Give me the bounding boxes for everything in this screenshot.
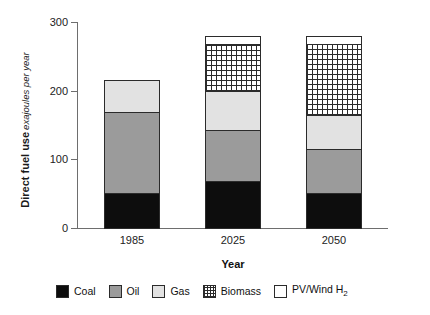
legend-label-coal: Coal xyxy=(74,285,96,297)
y-tick-label-100: 100 xyxy=(50,153,68,165)
legend-item-pv-wind[interactable]: PV/Wind H2 xyxy=(274,283,348,298)
bar-2050-segment-coal xyxy=(306,193,362,229)
bar-2050-segment-oil xyxy=(306,149,362,194)
bar-2025-segment-coal xyxy=(205,181,261,229)
y-tick-label-0: 0 xyxy=(62,222,68,234)
y-axis-line xyxy=(77,22,78,229)
y-tick-label-300: 300 xyxy=(50,16,68,28)
y-tick-300 xyxy=(71,22,78,23)
bar-2025-segment-biomass xyxy=(205,44,261,92)
legend-label-pv-wind: PV/Wind H2 xyxy=(292,283,348,298)
legend-swatch-gas-icon xyxy=(152,285,165,298)
bar-1985-segment-gas xyxy=(104,80,160,113)
legend-item-gas[interactable]: Gas xyxy=(152,285,189,298)
bar-2025-segment-gas xyxy=(205,91,261,131)
y-tick-100 xyxy=(71,159,78,160)
x-tick-label-1985: 1985 xyxy=(104,234,160,246)
legend-swatch-biomass-icon xyxy=(203,285,216,298)
y-tick-0 xyxy=(71,228,78,229)
legend-label-pv-wind-subscript: 2 xyxy=(343,290,347,299)
bar-2025[interactable] xyxy=(205,36,261,228)
bar-1985-segment-oil xyxy=(104,112,160,194)
legend-item-oil[interactable]: Oil xyxy=(109,285,140,298)
bar-2025-segment-oil xyxy=(205,130,261,182)
legend-swatch-oil-icon xyxy=(109,285,122,298)
x-axis-title: Year xyxy=(78,258,388,270)
x-tick-label-2025: 2025 xyxy=(205,234,261,246)
y-axis-title-sub: exajoules per year xyxy=(20,52,31,130)
legend-swatch-pv-wind-icon xyxy=(274,285,287,298)
legend-swatch-coal-icon xyxy=(56,285,69,298)
legend-item-biomass[interactable]: Biomass xyxy=(203,285,261,298)
y-tick-label-200: 200 xyxy=(50,85,68,97)
legend-item-coal[interactable]: Coal xyxy=(56,285,96,298)
legend-label-pv-wind-text: PV/Wind H xyxy=(292,283,343,295)
chart-legend: Coal Oil Gas Biomass PV/Wind H2 xyxy=(56,283,416,299)
bar-1985[interactable] xyxy=(104,80,160,228)
bar-1985-segment-coal xyxy=(104,193,160,229)
plot-area: 300 200 100 0 1985 2025 xyxy=(78,22,388,228)
y-axis-title: Direct fuel use exajoules per year xyxy=(8,60,42,200)
bar-2050[interactable] xyxy=(306,36,362,228)
y-axis-title-main: Direct fuel use xyxy=(19,132,31,208)
legend-label-gas: Gas xyxy=(170,285,189,297)
bar-2050-segment-biomass xyxy=(306,44,362,116)
legend-label-oil: Oil xyxy=(127,285,140,297)
bar-2050-segment-gas xyxy=(306,115,362,150)
y-tick-200 xyxy=(71,91,78,92)
stacked-bar-chart: Direct fuel use exajoules per year 300 2… xyxy=(0,0,430,315)
legend-label-biomass: Biomass xyxy=(221,285,261,297)
x-tick-label-2050: 2050 xyxy=(306,234,362,246)
